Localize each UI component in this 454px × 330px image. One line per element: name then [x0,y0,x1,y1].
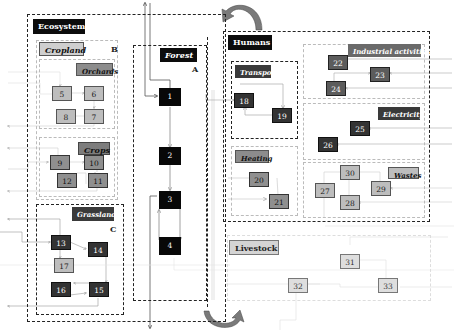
node-18: 18 [234,93,254,108]
node-13: 13 [51,235,71,250]
node-16: 16 [51,282,71,297]
grassland-letter: C [110,224,116,234]
node-21: 21 [269,194,289,209]
crops-title: Crops [78,142,110,155]
forest-letter: A [192,64,198,74]
node-17: 17 [54,258,74,273]
node-11: 11 [88,173,108,188]
node-31: 31 [340,254,360,269]
node-10: 10 [84,155,104,170]
orchards-title: Orchards [76,63,113,76]
node-28: 28 [340,195,360,210]
node-5: 5 [52,86,72,101]
node-4: 4 [159,237,181,255]
cropland-letter: B [111,44,118,54]
node-29: 29 [371,181,391,196]
node-22: 22 [328,55,348,70]
cropland-title: Cropland [39,42,84,56]
node-19: 19 [272,108,292,123]
grassland-title: Grassland [72,207,114,221]
industrial-title: Industrial activities [348,44,421,57]
transport-title: Transport [235,65,271,78]
node-23: 23 [370,67,390,82]
node-24: 24 [326,81,346,96]
ecosystems-title: Ecosystems [33,19,85,34]
wastes-title: Wastes [388,167,419,179]
node-8: 8 [56,109,76,124]
node-25: 25 [350,121,370,136]
node-33: 33 [378,278,398,293]
forest-inner-border [205,37,208,307]
node-7: 7 [84,109,104,124]
forest-title: Forest [160,48,197,62]
node-15: 15 [89,282,109,297]
node-9: 9 [50,155,70,170]
node-12: 12 [57,173,77,188]
heating-title: Heating [235,150,269,163]
node-20: 20 [249,172,269,187]
node-6: 6 [84,86,104,101]
node-27: 27 [315,183,335,198]
node-1: 1 [159,88,181,106]
node-14: 14 [88,242,108,257]
node-3: 3 [159,191,181,209]
node-30: 30 [340,165,360,180]
humans-title: Humans [228,35,272,50]
node-26: 26 [318,137,338,152]
forest-frame [133,45,207,301]
curved-arrow-top [222,5,262,30]
livestock-title: Livestock [229,240,279,255]
electricity-title: Electricity [378,107,420,120]
node-2: 2 [159,147,181,165]
node-32: 32 [288,278,308,293]
